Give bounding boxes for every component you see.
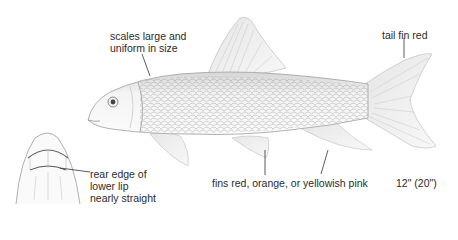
tail-fin-label: tail fin red [382,29,428,41]
lip-label-line-2: lower lip [90,180,156,192]
scales-label: scales large and uniform in size [110,30,186,54]
lip-label-line-1: rear edge of [90,168,156,180]
tail-fin [365,54,436,148]
size-label: 12" (20") [396,177,437,189]
lip-label-line-3: nearly straight [90,192,156,204]
mouth-inset-drawing [16,133,80,204]
fins-color-label: fins red, orange, or yellowish pink [212,177,368,189]
pectoral-fin [150,132,188,166]
scales-label-line-2: uniform in size [110,42,186,54]
scales-label-line-1: scales large and [110,30,186,42]
fish-body [88,72,368,135]
pelvic-fin [232,136,269,158]
lip-label: rear edge of lower lip nearly straight [90,168,156,204]
